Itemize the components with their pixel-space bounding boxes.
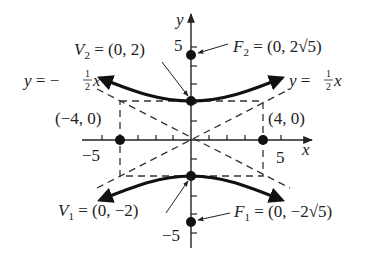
point-4-0-dot [258,135,268,145]
label-f1: F1 = (0, −2√5) [233,202,332,223]
svg-text:1: 1 [85,68,90,79]
focus-f1-dot [186,217,196,227]
svg-text:y = −: y = − [22,71,59,90]
label-v1: V1 = (0, −2) [58,201,138,222]
svg-text:y =: y = [287,71,310,90]
vertex-v1-dot [186,171,196,181]
tick-label-x-neg5: −5 [82,146,100,165]
point-neg4-0-dot [115,135,125,145]
svg-text:V1 = (0, −2): V1 = (0, −2) [58,201,138,222]
svg-text:V2 = (0, 2): V2 = (0, 2) [74,40,145,61]
lower-branch-right [191,176,282,200]
label-point-4-0: (4, 0) [268,109,305,128]
tick-label-x-5: 5 [276,148,285,167]
pointer-v2 [162,62,188,96]
label-pointers [162,44,230,220]
asymptote-label-left: y = − 1 2 x [22,68,101,92]
pointer-v1 [166,181,188,213]
y-axis-label: y [174,10,184,29]
label-v2: V2 = (0, 2) [74,40,145,61]
svg-text:2: 2 [85,81,90,92]
svg-text:F2 = (0, 2√5): F2 = (0, 2√5) [232,37,322,58]
pointer-f2 [198,44,228,53]
label-point-neg4-0: (−4, 0) [55,109,101,128]
asymptote-label-right: y = 1 2 x [287,68,342,92]
label-f2: F2 = (0, 2√5) [232,37,322,58]
tick-label-y-neg5: −5 [162,226,180,245]
x-axis-label: x [301,140,310,159]
hyperbola-diagram: y x 5 −5 −5 5 V2 = (0, 2) F2 = (0, 2√5) … [0,0,385,260]
svg-text:x: x [333,71,342,90]
svg-text:1: 1 [326,68,331,79]
svg-text:x: x [92,71,101,90]
focus-f2-dot [186,50,196,60]
vertex-v2-dot [186,96,196,106]
upper-branch-right [191,78,282,101]
svg-text:F1 = (0, −2√5): F1 = (0, −2√5) [233,202,332,223]
pointer-f1 [198,213,230,220]
tick-label-y-5: 5 [174,36,183,55]
svg-text:2: 2 [326,81,331,92]
